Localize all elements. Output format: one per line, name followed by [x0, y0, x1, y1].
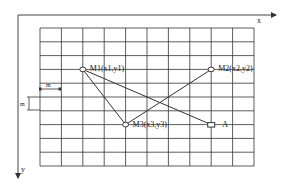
positioning-diagram: x y m m M1(x1,y1)M2(x2,y2)M3(x3,y3)A — [0, 0, 291, 189]
anchor-marker-square-icon — [208, 123, 215, 128]
point-label-m1: M1(x1,y1) — [90, 64, 125, 73]
y-axis-label: y — [21, 165, 25, 174]
node-marker-circle-icon — [80, 67, 86, 72]
cell-height-label: m — [20, 101, 25, 107]
point-label-m2: M2(x2,y2) — [218, 64, 253, 73]
points: M1(x1,y1)M2(x2,y2)M3(x3,y3)A — [80, 64, 253, 128]
x-axis-label: x — [257, 16, 261, 25]
point-label-m3: M3(x3,y3) — [133, 120, 168, 129]
node-marker-circle-icon — [208, 67, 214, 72]
cell-height-dimension: m — [20, 97, 40, 110]
point-label-a: A — [222, 120, 228, 129]
cell-width-label: m — [46, 82, 51, 88]
node-marker-circle-icon — [123, 122, 129, 127]
